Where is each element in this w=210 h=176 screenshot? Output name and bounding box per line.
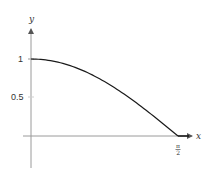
y-tick-label-0-5: 0.5 [11, 92, 24, 102]
x-tick-label-pi-over-2: π 2 [176, 142, 181, 156]
y-tick-label-1: 1 [18, 54, 23, 64]
x-axis-label: x [196, 131, 201, 141]
frac-numerator: π [176, 142, 180, 149]
frac-denominator: 2 [176, 149, 180, 156]
data-curve [31, 59, 178, 136]
chart-canvas: y x 1 0.5 π 2 [0, 0, 210, 176]
y-axis-label: y [28, 14, 35, 24]
